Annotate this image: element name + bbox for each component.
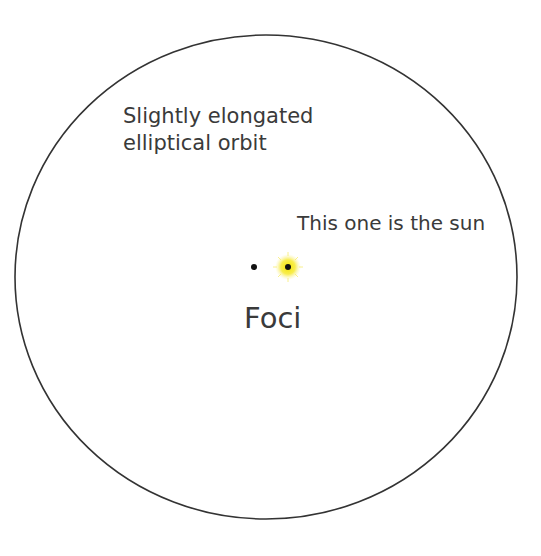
sun-focus-dot xyxy=(285,264,291,270)
sun-icon xyxy=(273,252,303,282)
empty-focus-dot xyxy=(251,264,257,270)
foci-label: Foci xyxy=(244,301,301,335)
orbit-diagram: Slightly elongated elliptical orbit This… xyxy=(0,0,541,556)
orbit-label-line2: elliptical orbit xyxy=(123,131,267,155)
sun-label: This one is the sun xyxy=(296,211,485,235)
orbit-label-line1: Slightly elongated xyxy=(123,104,313,128)
